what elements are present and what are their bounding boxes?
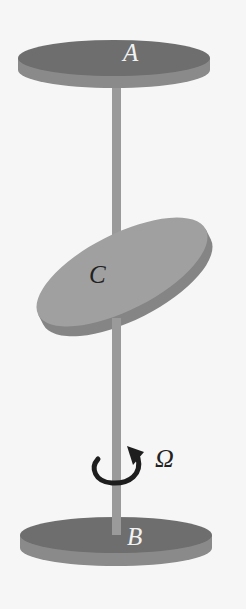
label-angular-velocity: Ω: [155, 446, 174, 472]
disk-a: [18, 40, 210, 88]
label-disk-a: A: [123, 40, 138, 65]
disk-b: [20, 515, 212, 566]
label-disk-c: C: [89, 262, 106, 287]
rotor-diagram: A C Ω B: [0, 0, 246, 609]
shaft-upper: [112, 88, 121, 238]
shaft-lower: [112, 318, 121, 528]
diagram-canvas: [0, 0, 246, 609]
label-disk-b: B: [127, 524, 142, 549]
disk-c: [21, 195, 228, 358]
